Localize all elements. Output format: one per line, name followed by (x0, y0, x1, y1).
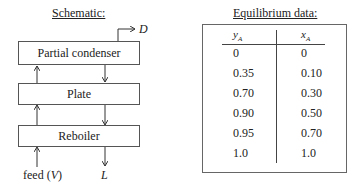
table-cell-y: 1.0 (233, 146, 248, 161)
table-cell-x: 0.10 (301, 66, 322, 81)
table-cell-x: 1.0 (301, 146, 316, 161)
table-cell-y: 0.35 (233, 66, 254, 81)
table-cell-x: 0.70 (301, 126, 322, 141)
table-cell-x: 0.50 (301, 106, 322, 121)
table-cell-y: 0 (233, 46, 239, 61)
table-cell-y: 0.90 (233, 106, 254, 121)
column-header-x: xA (301, 28, 310, 43)
table-cell-y: 0.95 (233, 126, 254, 141)
column-header-y: yA (233, 28, 242, 43)
table-cell-x: 0 (301, 46, 307, 61)
table-cell-y: 0.70 (233, 86, 254, 101)
table-cell-x: 0.30 (301, 86, 322, 101)
